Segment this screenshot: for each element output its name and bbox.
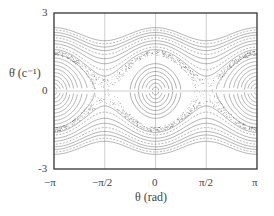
y-axis-label: θ̇ (c⁻¹) xyxy=(9,66,41,81)
y-axis-unit: (c⁻¹) xyxy=(18,66,41,80)
y-axis-symbol: θ̇ xyxy=(9,66,15,80)
x-tick-minus-pi: −π xyxy=(44,176,56,188)
x-tick-pi-half: π/2 xyxy=(199,176,213,188)
x-tick-minus-pi-half: −π/2 xyxy=(92,176,112,188)
phase-portrait-plot xyxy=(0,0,274,216)
x-axis-label: θ (rad) xyxy=(135,190,167,205)
y-tick-0: 0 xyxy=(42,84,48,96)
y-tick-minus3: -3 xyxy=(38,162,47,174)
x-tick-pi: π xyxy=(252,176,258,188)
x-tick-0: 0 xyxy=(152,176,158,188)
y-tick-3: 3 xyxy=(42,6,48,18)
plot-area xyxy=(49,13,263,169)
